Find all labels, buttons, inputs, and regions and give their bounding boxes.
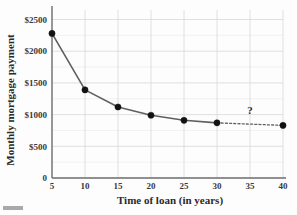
y-tick-label: $1000 (25, 110, 48, 120)
x-axis-title: Time of loan (in years) (117, 194, 223, 207)
x-tick-label: 35 (246, 181, 256, 191)
y-tick-label: $2500 (25, 15, 48, 25)
y-tick-label: $500 (29, 142, 48, 152)
line-chart: 0$500$1000$1500$2000$2500 51015202530354… (0, 0, 297, 215)
x-tick-label: 10 (81, 181, 91, 191)
y-axis-title: Monthly mortgage payment (4, 34, 16, 166)
x-tick-label: 20 (147, 181, 157, 191)
question-mark-annotation: ? (247, 104, 253, 116)
x-tick-label: 25 (180, 181, 190, 191)
x-tick-label: 5 (50, 181, 55, 191)
y-tick-label: $1500 (25, 78, 48, 88)
y-tick-label: 0 (43, 173, 48, 183)
x-tick-label: 15 (114, 181, 124, 191)
x-tick-label: 30 (213, 181, 223, 191)
chart-figure: 0$500$1000$1500$2000$2500 51015202530354… (0, 0, 297, 215)
x-tick-label: 40 (279, 181, 289, 191)
scan-artifact (3, 206, 23, 210)
y-tick-label: $2000 (25, 46, 48, 56)
